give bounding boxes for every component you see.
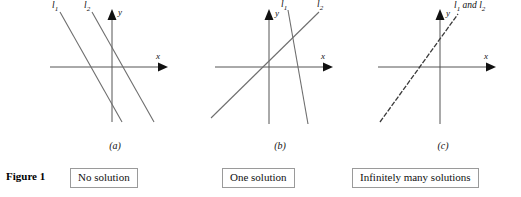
caption-box-infinitely-many-solutions: Infinitely many solutions [352, 168, 479, 188]
panel-letter-b: (b) [195, 140, 365, 151]
figure-1-container: x y l1 l2 (a) x y [0, 0, 521, 197]
caption-box-one-solution: One solution [222, 168, 295, 188]
y-axis-arrowhead-icon [436, 9, 445, 20]
line-l2 [211, 12, 319, 118]
x-axis-label: x [155, 51, 160, 61]
panel-b-one-solution: x y l1 l2 (b) [195, 0, 365, 160]
y-axis-arrowhead-icon [108, 9, 117, 20]
panel-a-no-solution: x y l1 l2 (a) [30, 0, 200, 160]
x-axis-label: x [320, 51, 325, 61]
panel-b-graph: x y l1 l2 [195, 0, 365, 160]
line-label-l2: l2 [84, 0, 91, 13]
x-axis-arrowhead-icon [486, 63, 496, 72]
y-axis-label: y [274, 8, 279, 18]
x-axis-arrowhead-icon [323, 63, 333, 72]
y-axis-label: y [445, 8, 450, 18]
line-label-l1-and-l2: l1 and l2 [454, 0, 486, 13]
line-label-l2: l2 [317, 0, 324, 12]
panel-c-graph: x y l1 and l2 [358, 0, 521, 160]
panel-c-infinitely-many-solutions: x y l1 and l2 (c) [358, 0, 521, 160]
figure-number-label: Figure 1 [6, 170, 45, 182]
caption-box-no-solution: No solution [70, 168, 138, 188]
y-axis-arrowhead-icon [265, 9, 274, 20]
line-l1-and-l2 [380, 14, 458, 122]
x-axis-arrowhead-icon [158, 63, 168, 72]
panel-letter-c: (c) [358, 140, 521, 151]
line-label-l1: l1 [281, 0, 287, 12]
y-axis-label: y [117, 7, 122, 17]
line-label-l1: l1 [52, 0, 58, 13]
panel-a-graph: x y l1 l2 [30, 0, 200, 160]
x-axis-label: x [483, 51, 488, 61]
panel-letter-a: (a) [30, 140, 200, 151]
